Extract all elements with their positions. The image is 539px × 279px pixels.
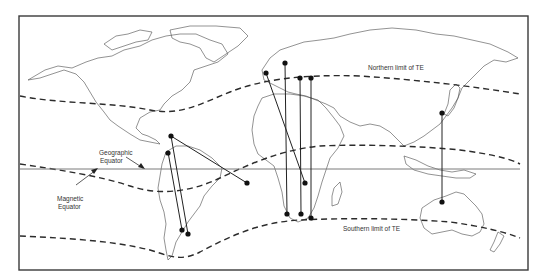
southern-limit-of-te-curve xyxy=(20,219,520,258)
landmass-south-america xyxy=(158,146,222,260)
landmass-japan xyxy=(444,84,460,116)
endpoint-dot xyxy=(244,180,249,185)
landmass-north-america xyxy=(28,34,228,144)
northern-limit-of-te-curve xyxy=(20,76,520,112)
magnetic-equator-curve xyxy=(20,145,520,191)
landmass-new-zealand xyxy=(490,232,504,252)
path-greece-to-south-africa xyxy=(300,78,301,214)
landmass-madagascar xyxy=(332,182,342,206)
endpoint-dot xyxy=(308,215,313,220)
coastlines xyxy=(28,26,518,260)
world-map-figure: Northern limit of TE Southern limit of T… xyxy=(0,0,539,279)
endpoint-dot xyxy=(282,60,287,65)
endpoint-dot xyxy=(284,211,289,216)
landmass-arctic-islands xyxy=(104,30,152,50)
southern-limit-label: Southern limit of TE xyxy=(343,225,401,232)
endpoint-dot xyxy=(165,150,170,155)
endpoint-dot xyxy=(308,75,313,80)
geographic-equator-label-line1: Geographic xyxy=(99,149,133,157)
landmass-australia xyxy=(420,192,484,236)
endpoint-dot xyxy=(298,211,303,216)
endpoint-dot xyxy=(439,199,444,204)
endpoint-dot xyxy=(439,110,444,115)
magnetic-equator-label-line2: Equator xyxy=(58,203,82,211)
endpoint-dot xyxy=(297,75,302,80)
endpoint-dot xyxy=(302,180,307,185)
endpoint-dot xyxy=(185,231,190,236)
endpoint-dot xyxy=(179,227,184,232)
northern-limit-label: Northern limit of TE xyxy=(368,64,425,71)
endpoint-dot xyxy=(263,70,268,75)
map-frame xyxy=(19,16,528,270)
endpoint-dot xyxy=(168,133,173,138)
landmass-southeast-asia-islands xyxy=(404,156,476,178)
path-italy-to-south-africa xyxy=(285,63,287,214)
landmass-greenland xyxy=(170,26,248,62)
magnetic-equator-label-line1: Magnetic xyxy=(57,195,84,203)
geographic-equator-arrowhead-icon xyxy=(138,163,145,169)
path-caribbean-to-south-atlantic xyxy=(171,136,247,183)
geographic-equator-label-line2: Equator xyxy=(100,157,124,165)
